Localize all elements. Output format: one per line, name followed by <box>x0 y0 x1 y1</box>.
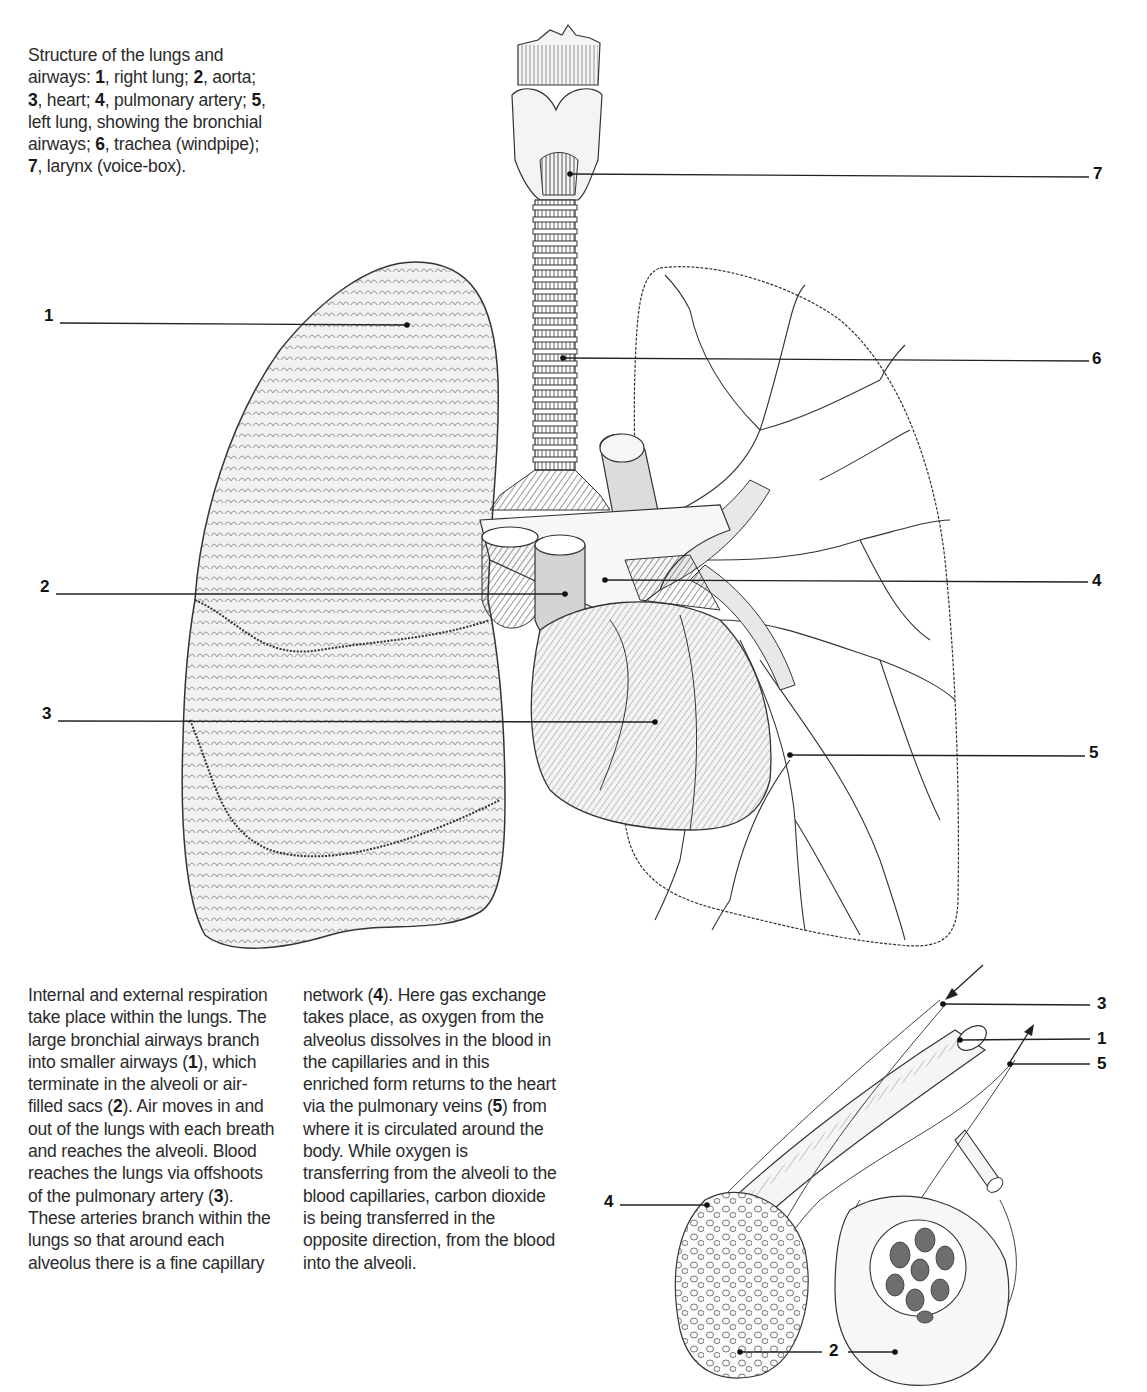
alveoli-label-airway: 1 <box>1097 1029 1106 1049</box>
right-lung <box>182 262 505 948</box>
alveoli-label-alveoli: 2 <box>829 1341 838 1361</box>
label-aorta: 2 <box>40 577 49 597</box>
alveoli-label-vein: 5 <box>1097 1054 1106 1074</box>
label-larynx: 7 <box>1093 164 1102 184</box>
trachea <box>490 200 610 510</box>
label-pulmonary-artery: 4 <box>1092 571 1101 591</box>
label-left-lung: 5 <box>1089 743 1098 763</box>
label-heart: 3 <box>42 704 51 724</box>
lungs-airways-illustration <box>0 0 1147 1392</box>
alveoli-label-artery: 3 <box>1097 994 1106 1014</box>
alveoli-label-capillary: 4 <box>604 1192 613 1212</box>
alveoli-illustration <box>620 965 1090 1385</box>
label-right-lung: 1 <box>44 306 53 326</box>
label-trachea: 6 <box>1092 349 1101 369</box>
